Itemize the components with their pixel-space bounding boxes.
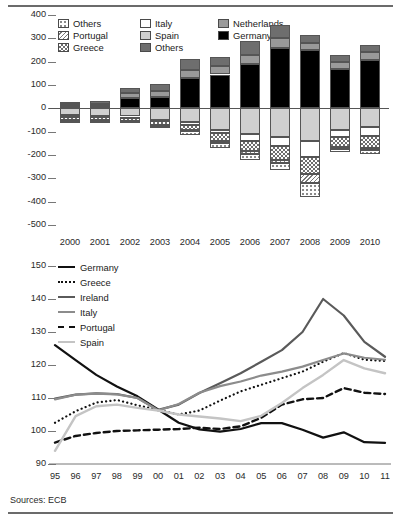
bar-segment-germany [150,97,170,109]
line-series-spain [55,360,385,451]
bar-segment-greece [270,146,290,160]
bar-segment-germany [300,50,320,109]
bar-segment-others_pat [120,121,140,123]
bar-segment-netherlands [180,70,200,78]
bar-segment-others_pat [60,121,80,123]
bar-y-tick-label: -200 [4,150,46,159]
bar-segment-netherlands [60,104,80,106]
bar-segment-others_dark [120,88,140,93]
bar-segment-others_pat [90,121,110,123]
bar-segment-germany [120,98,140,109]
bar-segment-portugal [300,174,320,184]
bar-segment-germany [330,69,350,109]
bar-segment-greece [300,157,320,173]
bar-segment-germany [270,48,290,108]
source-note: Sources: ECB [10,495,67,505]
bar-segment-netherlands [150,91,170,97]
bar-segment-others_pat [360,150,380,153]
bar-segment-others_dark [360,45,380,52]
bar-segment-others_pat [300,183,320,197]
bar-segment-germany [360,60,380,108]
bar-segment-spain [330,108,350,129]
bar-segment-others_pat [210,143,230,148]
bar-segment-netherlands [360,52,380,60]
bar-segment-spain [300,108,320,141]
bar-y-tick-label: 300 [4,33,46,42]
bar-segment-netherlands [90,104,110,106]
bar-segment-others_pat [180,131,200,135]
bar-segment-others_pat [270,163,290,170]
bar-segment-others_dark [60,102,80,104]
bar-segment-others_pat [330,149,350,152]
bar-y-tick-mark [48,225,56,226]
bar-segment-greece [360,136,380,148]
bar-segment-spain [240,108,260,134]
bar-segment-netherlands [270,38,290,49]
bar-segment-italy [360,127,380,136]
bar-segment-italy [300,141,320,157]
bottom-divider-rule [8,512,393,514]
bar-y-tick-label: -100 [4,127,46,136]
bar-segment-others_pat [150,126,170,128]
bar-y-tick-label: -500 [4,220,46,229]
figure-title-cropped [10,0,390,3]
bar-segment-italy [270,137,290,146]
bar-segment-spain [270,108,290,136]
bar-segment-greece [330,137,350,147]
bar-segment-others_dark [180,59,200,70]
bar-segment-others_dark [240,41,260,55]
bar-y-tick-label: 200 [4,57,46,66]
line-x-tick-label: 11 [373,471,397,481]
line-chart: 15014013012011010090 GermanyGreeceIrelan… [0,258,399,498]
bar-segment-netherlands [300,43,320,50]
bar-segment-spain [120,108,140,116]
bar-segment-others_dark [300,35,320,42]
bar-chart-plot-area [55,15,385,225]
bar-segment-others_pat [240,154,260,161]
bar-x-tick-label: 2010 [352,237,388,247]
bar-segment-others_dark [90,101,110,103]
bar-segment-spain [90,108,110,115]
bar-segment-spain [360,108,380,127]
bar-segment-others_dark [210,57,230,67]
bar-y-tick-label: 0 [4,103,46,112]
bar-segment-germany [240,64,260,108]
bar-y-tick-label: 400 [4,10,46,19]
bar-segment-germany [210,75,230,109]
bar-segment-greece [210,133,230,141]
bar-segment-spain [210,108,230,129]
bar-segment-netherlands [120,93,140,98]
stacked-bar-chart: 4003002001000-100-200-300-400-500 Others… [0,10,399,255]
bar-segment-spain [150,108,170,119]
line-chart-series-canvas [0,258,399,498]
bar-zero-line [49,108,389,109]
bar-segment-others_dark [330,55,350,62]
bar-segment-netherlands [240,55,260,64]
bar-y-tick-label: 100 [4,80,46,89]
bar-segment-netherlands [210,66,230,74]
bar-segment-germany [180,78,200,108]
figure-page: 4003002001000-100-200-300-400-500 Others… [0,0,399,522]
line-series-greece [55,353,385,423]
bar-segment-italy [240,134,260,141]
bar-y-tick-label: -300 [4,173,46,182]
bar-y-tick-label: -400 [4,197,46,206]
bar-segment-netherlands [330,62,350,69]
bar-segment-italy [330,130,350,137]
bar-segment-spain [180,108,200,122]
top-divider-rule [8,5,393,7]
bar-segment-greece [240,141,260,151]
bar-segment-others_dark [150,84,170,91]
bar-segment-others_dark [270,25,290,38]
